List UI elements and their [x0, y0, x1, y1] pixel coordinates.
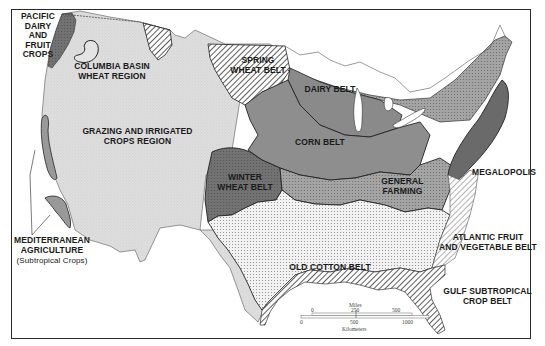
- scale-km-0: 0: [300, 319, 303, 325]
- label-megalopolis: MEGALOPOLIS: [469, 168, 539, 178]
- label-general-farming: GENERAL FARMING: [375, 177, 430, 196]
- scale-mile-250: 250: [351, 307, 359, 313]
- label-pacific-dairy: PACIFIC DAIRY AND FRUIT CROPS: [12, 12, 64, 60]
- label-old-cotton: OLD COTTON BELT: [285, 263, 375, 273]
- lake-huron: [384, 97, 393, 110]
- label-mediterranean: MEDITERRANEAN AGRICULTURE: [12, 236, 92, 255]
- label-mediterranean-sub: (Subtropical Crops): [12, 256, 92, 266]
- label-spring-wheat: SPRING WHEAT BELT: [228, 56, 288, 75]
- label-dairy-belt: DAIRY BELT: [295, 85, 365, 95]
- label-corn-belt: CORN BELT: [290, 138, 350, 148]
- scale-km-label: Kilometers: [342, 326, 366, 332]
- scale-km-1000: 1000: [402, 319, 413, 325]
- label-grazing: GRAZING AND IRRIGATED CROPS REGION: [75, 127, 200, 146]
- scale-mile-0: 0: [311, 307, 314, 313]
- label-winter-wheat: WINTER WHEAT BELT: [210, 173, 280, 192]
- scale-bar: [301, 310, 429, 318]
- scale-mile-500: 500: [392, 307, 400, 313]
- label-columbia-basin: COLUMBIA BASIN WHEAT REGION: [72, 62, 152, 81]
- label-atlantic-fruit: ATLANTIC FRUIT AND VEGETABLE BELT: [438, 233, 538, 252]
- scale-km-500: 500: [350, 319, 358, 325]
- label-gulf-subtropical: GULF SUBTROPICAL CROP BELT: [440, 287, 535, 306]
